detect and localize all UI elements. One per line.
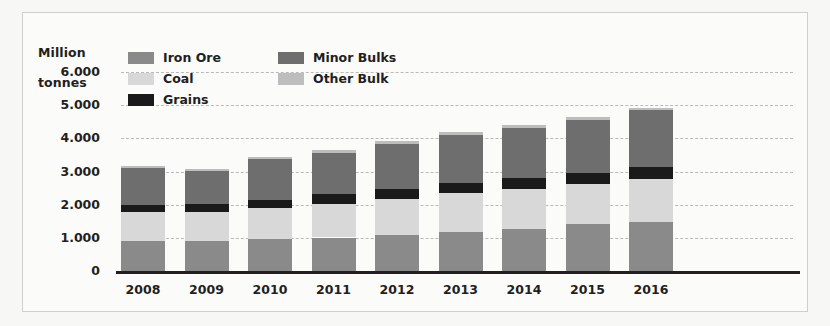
y-tick-label: 1.000 — [38, 230, 100, 245]
x-tick-label: 2015 — [558, 282, 618, 297]
bar-segment[interactable] — [121, 168, 165, 204]
legend-label: Minor Bulks — [313, 50, 396, 65]
x-tick-label: 2013 — [431, 282, 491, 297]
bar-segment[interactable] — [185, 171, 229, 204]
bar-segment[interactable] — [248, 157, 292, 159]
bar-segment[interactable] — [566, 173, 610, 184]
y-tick-label: 3.000 — [38, 164, 100, 179]
bar-segment[interactable] — [185, 169, 229, 171]
bar-segment[interactable] — [566, 184, 610, 224]
y-tick-label: 6.000 — [38, 64, 100, 79]
bar-segment[interactable] — [248, 239, 292, 271]
legend-label: Iron Ore — [163, 50, 221, 65]
bar-group[interactable] — [566, 72, 610, 271]
y-tick-label: 4.000 — [38, 130, 100, 145]
bar-group[interactable] — [312, 72, 356, 271]
bar-segment[interactable] — [185, 204, 229, 212]
bar-group[interactable] — [502, 72, 546, 271]
x-tick-label: 2012 — [367, 282, 427, 297]
bar-segment[interactable] — [629, 108, 673, 111]
x-tick-label: 2016 — [621, 282, 681, 297]
bar-segment[interactable] — [375, 235, 419, 271]
bar-segment[interactable] — [629, 110, 673, 166]
bar-segment[interactable] — [502, 128, 546, 179]
y-tick-label: 2.000 — [38, 197, 100, 212]
bar-segment[interactable] — [566, 117, 610, 120]
bar-group[interactable] — [248, 72, 292, 271]
x-tick-label: 2010 — [240, 282, 300, 297]
legend-item[interactable]: Minor Bulks — [278, 50, 428, 65]
bar-segment[interactable] — [312, 150, 356, 152]
bar-segment[interactable] — [121, 212, 165, 241]
bar-segment[interactable] — [629, 222, 673, 271]
bar-segment[interactable] — [502, 229, 546, 271]
legend-item[interactable]: Iron Ore — [128, 50, 278, 65]
bar-segment[interactable] — [312, 194, 356, 204]
legend-row: Iron OreMinor Bulks — [128, 47, 428, 68]
bar-segment[interactable] — [566, 224, 610, 271]
y-tick-label: 0 — [38, 263, 100, 278]
bar-segment[interactable] — [312, 204, 356, 238]
y-tick-label: 5.000 — [38, 97, 100, 112]
bar-segment[interactable] — [185, 212, 229, 242]
bar-segment[interactable] — [439, 183, 483, 193]
bar-segment[interactable] — [375, 141, 419, 143]
bar-segment[interactable] — [439, 132, 483, 135]
bar-segment[interactable] — [248, 208, 292, 239]
bar-segment[interactable] — [121, 205, 165, 212]
bar-group[interactable] — [185, 72, 229, 271]
y-axis-title-line1: Million — [38, 45, 86, 60]
bar-segment[interactable] — [375, 144, 419, 189]
x-tick-label: 2011 — [304, 282, 364, 297]
bar-segment[interactable] — [121, 241, 165, 271]
bar-segment[interactable] — [121, 166, 165, 168]
chart-figure: Million tonnes 6.0005.0004.0003.0002.000… — [0, 0, 830, 326]
bar-segment[interactable] — [502, 125, 546, 128]
bar-segment[interactable] — [502, 178, 546, 189]
bar-segment[interactable] — [375, 199, 419, 235]
bar-segment[interactable] — [248, 159, 292, 199]
x-tick-label: 2008 — [113, 282, 173, 297]
bar-segment[interactable] — [629, 167, 673, 179]
x-tick-label: 2014 — [494, 282, 554, 297]
legend-swatch-icon — [128, 52, 154, 64]
legend-swatch-icon — [278, 52, 304, 64]
bar-segment[interactable] — [312, 153, 356, 194]
bar-segment[interactable] — [185, 241, 229, 271]
bar-segment[interactable] — [248, 200, 292, 209]
bar-segment[interactable] — [566, 120, 610, 173]
bar-segment[interactable] — [439, 135, 483, 183]
bar-group[interactable] — [439, 72, 483, 271]
bar-segment[interactable] — [312, 238, 356, 271]
bar-group[interactable] — [375, 72, 419, 271]
bar-segment[interactable] — [439, 232, 483, 271]
x-tick-label: 2009 — [177, 282, 237, 297]
bar-segment[interactable] — [629, 179, 673, 222]
x-axis-line — [116, 271, 800, 274]
bar-segment[interactable] — [439, 193, 483, 232]
bar-group[interactable] — [629, 72, 673, 271]
y-axis-title: Million tonnes — [38, 30, 87, 90]
bar-segment[interactable] — [375, 189, 419, 199]
bar-group[interactable] — [121, 72, 165, 271]
bar-segment[interactable] — [502, 189, 546, 228]
